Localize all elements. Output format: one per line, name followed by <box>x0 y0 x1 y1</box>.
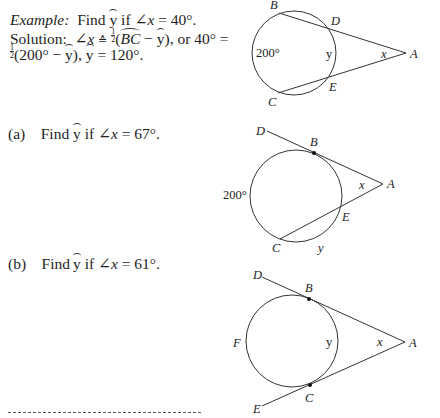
tangent-da <box>267 131 383 184</box>
label-d: D <box>252 268 262 282</box>
angle-x-label: x <box>380 47 387 61</box>
problem-a-labels: D B A E C 200° y x <box>223 124 395 255</box>
label-e: E <box>341 210 350 224</box>
dashed-separator <box>8 412 201 413</box>
arc-y-label: y <box>316 241 324 255</box>
label-f: F <box>232 336 241 350</box>
angle-x-label: x <box>358 178 365 192</box>
problem-a-circle <box>250 150 342 242</box>
tangent-ea <box>262 342 405 406</box>
tangent-point-c <box>308 383 312 387</box>
geometry-diagrams: B D A E C 200° y x D B A E C 200° y x D … <box>0 0 440 418</box>
arc-y-label: y <box>326 47 333 61</box>
tangent-point-b <box>312 151 316 155</box>
label-a: A <box>386 177 395 191</box>
arc-y-label: y <box>326 335 333 349</box>
arc-200-label: 200° <box>256 46 280 60</box>
secant-ac <box>278 53 406 93</box>
secant-ca <box>280 184 383 239</box>
label-c: C <box>272 241 281 255</box>
problem-b-labels: D B A F C E y x <box>232 268 417 416</box>
tangent-point-b <box>307 297 311 301</box>
tangent-da <box>262 277 405 342</box>
label-e: E <box>328 80 337 94</box>
label-b: B <box>270 0 278 12</box>
label-a: A <box>409 47 418 61</box>
secant-ab <box>279 13 406 53</box>
arc-200-label: 200° <box>223 188 247 202</box>
problem-b-circle <box>246 295 338 387</box>
label-c: C <box>305 391 314 405</box>
label-c: C <box>268 95 277 109</box>
label-e: E <box>252 402 261 416</box>
label-a: A <box>408 336 417 350</box>
label-b: B <box>310 135 318 149</box>
label-d: D <box>330 14 340 28</box>
angle-x-label: x <box>376 335 383 349</box>
label-d: D <box>255 124 265 138</box>
label-b: B <box>305 281 313 295</box>
